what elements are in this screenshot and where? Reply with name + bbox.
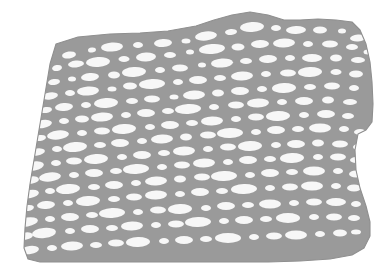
pore [66, 158, 82, 165]
pore [108, 240, 124, 247]
pore [220, 144, 236, 151]
pore [180, 134, 192, 141]
pore [119, 56, 130, 62]
pore [191, 188, 209, 196]
pore [209, 104, 219, 110]
pore [282, 184, 298, 191]
pore [88, 184, 100, 190]
pore [81, 102, 91, 108]
specimen-illustration [0, 0, 392, 280]
pore [259, 200, 281, 209]
pore [330, 154, 346, 161]
pore [264, 156, 276, 162]
pore [339, 126, 349, 132]
pore [155, 67, 165, 73]
pore [170, 95, 179, 100]
pore [343, 99, 357, 105]
pore [186, 50, 194, 55]
pore [168, 221, 184, 228]
pore [245, 172, 255, 178]
pore [303, 41, 313, 47]
pore [94, 128, 110, 135]
pore [51, 160, 61, 166]
pore [301, 182, 323, 191]
pore [257, 86, 267, 92]
pore [240, 58, 252, 64]
pore [326, 214, 342, 221]
pore [126, 98, 138, 104]
pore [77, 130, 87, 136]
pore [86, 212, 98, 218]
pore [189, 76, 207, 84]
pore [137, 138, 147, 144]
pore [299, 112, 309, 118]
pore [266, 233, 282, 240]
pore [45, 216, 55, 222]
pore [303, 167, 325, 176]
pore [313, 154, 323, 160]
pore [61, 213, 79, 221]
pore [108, 87, 117, 92]
pore [322, 97, 334, 104]
pore [289, 200, 299, 206]
pore [330, 55, 342, 62]
pore [333, 230, 347, 237]
pore [351, 57, 365, 63]
pore [317, 110, 335, 118]
pore [239, 156, 257, 164]
pore [63, 200, 73, 206]
pore [261, 71, 271, 77]
pore [333, 168, 343, 174]
pore [338, 29, 346, 34]
pore [110, 168, 122, 174]
pore [276, 213, 300, 223]
pore [260, 216, 272, 222]
pore [174, 176, 186, 183]
pore [175, 236, 193, 244]
pore [105, 181, 123, 189]
pore [315, 231, 325, 237]
pore [309, 214, 319, 220]
pore [59, 118, 69, 124]
pore [182, 39, 191, 44]
pore [198, 63, 206, 68]
pore [158, 150, 170, 156]
pore [306, 199, 322, 206]
pore [212, 90, 224, 97]
pore [242, 202, 254, 208]
pore [280, 70, 296, 77]
pore [137, 109, 155, 117]
pore [133, 42, 143, 48]
pore [304, 84, 316, 90]
pore [203, 146, 213, 152]
pore [261, 169, 279, 177]
pore [235, 216, 253, 224]
pore [90, 242, 102, 248]
pore [302, 54, 322, 62]
pore [201, 205, 211, 211]
pore [85, 169, 103, 177]
pore [217, 202, 235, 210]
pore [162, 108, 174, 114]
pore [342, 113, 354, 119]
pore [248, 114, 264, 121]
pore [348, 215, 360, 221]
pore [215, 233, 241, 243]
pore [159, 238, 169, 244]
pore [219, 218, 229, 224]
pore [351, 201, 361, 207]
pore [322, 41, 338, 48]
pore [108, 196, 120, 202]
pore [295, 97, 313, 105]
pore [133, 209, 143, 215]
pore [52, 146, 62, 152]
pore [47, 245, 57, 251]
pore [232, 44, 245, 51]
pore [324, 83, 340, 90]
pore [150, 207, 166, 214]
pore [346, 44, 358, 50]
pore [271, 142, 281, 148]
pore [69, 172, 79, 178]
pore [231, 116, 241, 122]
pore [331, 183, 341, 189]
